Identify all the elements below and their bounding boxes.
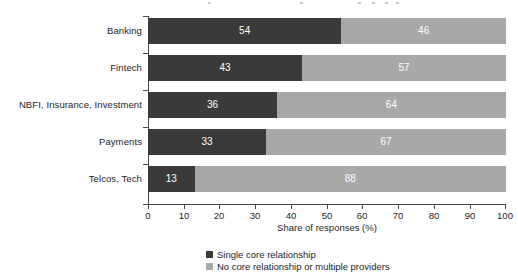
legend-label: No core relationship or multiple provide…	[217, 261, 390, 273]
legend-item-no-core: No core relationship or multiple provide…	[206, 261, 466, 273]
x-axis-tick	[362, 205, 363, 209]
x-axis-tick-label: 20	[199, 210, 239, 221]
y-axis-label-banking: Banking	[0, 26, 142, 36]
bar-row: 36 64	[148, 92, 506, 118]
chart-legend: Single core relationship No core relatio…	[206, 249, 466, 273]
bar-value-label: 46	[341, 25, 506, 36]
x-axis-title: Share of responses (%)	[148, 222, 506, 233]
x-axis-tick	[398, 205, 399, 209]
x-axis-tick-label: 80	[414, 210, 454, 221]
x-axis-tick	[219, 205, 220, 209]
y-axis-labels: Banking Fintech NBFI, Insurance, Investm…	[0, 18, 142, 203]
y-axis-label-payments: Payments	[0, 137, 142, 147]
bar-row: 54 46	[148, 18, 506, 44]
bar-value-label: 43	[148, 62, 302, 73]
bar-value-label: 33	[148, 136, 266, 147]
bar-segment-no-core: 88	[195, 166, 506, 192]
x-axis-tick-label: 50	[307, 210, 347, 221]
x-axis-tick	[470, 205, 471, 209]
legend-swatch-icon	[206, 251, 213, 258]
x-axis-tick-label: 90	[450, 210, 490, 221]
bar-row: 13 88	[148, 166, 506, 192]
x-axis-tick	[255, 205, 256, 209]
bar-value-label: 88	[195, 173, 506, 184]
x-axis-tick	[291, 205, 292, 209]
bar-value-label: 13	[148, 173, 195, 184]
bar-row: 43 57	[148, 55, 506, 81]
x-axis-tick	[184, 205, 185, 209]
x-axis-tick-label: 40	[271, 210, 311, 221]
x-axis-tick	[327, 205, 328, 209]
bar-row: 33 67	[148, 129, 506, 155]
y-axis-label-nbfi: NBFI, Insurance, Investment	[0, 100, 142, 110]
bar-value-label: 67	[266, 136, 506, 147]
x-axis-tick-label: 10	[164, 210, 204, 221]
plot-area: 54 46 43 57 36 64 33	[148, 16, 506, 205]
bar-value-label: 57	[302, 62, 506, 73]
x-axis-tick	[505, 205, 506, 209]
bar-segment-no-core: 57	[302, 55, 506, 81]
x-axis-tick-label: 100	[485, 210, 518, 221]
x-axis-tick-label: 30	[235, 210, 275, 221]
cropped-title-remnant	[180, 0, 410, 4]
bar-segment-single-core: 36	[148, 92, 277, 118]
bar-segment-no-core: 64	[277, 92, 506, 118]
bar-segment-single-core: 33	[148, 129, 266, 155]
bar-segment-single-core: 13	[148, 166, 195, 192]
bar-value-label: 64	[277, 99, 506, 110]
bar-value-label: 54	[148, 25, 341, 36]
chart-figure: Banking Fintech NBFI, Insurance, Investm…	[0, 0, 518, 278]
x-axis-tick	[148, 205, 149, 209]
legend-swatch-icon	[206, 263, 213, 270]
legend-item-single-core: Single core relationship	[206, 249, 466, 261]
x-axis-tick	[434, 205, 435, 209]
x-axis-tick-label: 0	[128, 210, 168, 221]
bar-value-label: 36	[148, 99, 277, 110]
bar-segment-no-core: 67	[266, 129, 506, 155]
legend-label: Single core relationship	[217, 249, 316, 261]
y-axis-label-telcos: Telcos, Tech	[0, 174, 142, 184]
x-axis-tick-label: 70	[378, 210, 418, 221]
bar-segment-single-core: 43	[148, 55, 302, 81]
y-axis-label-fintech: Fintech	[0, 63, 142, 73]
bar-segment-no-core: 46	[341, 18, 506, 44]
bar-segment-single-core: 54	[148, 18, 341, 44]
x-axis-tick-label: 60	[342, 210, 382, 221]
